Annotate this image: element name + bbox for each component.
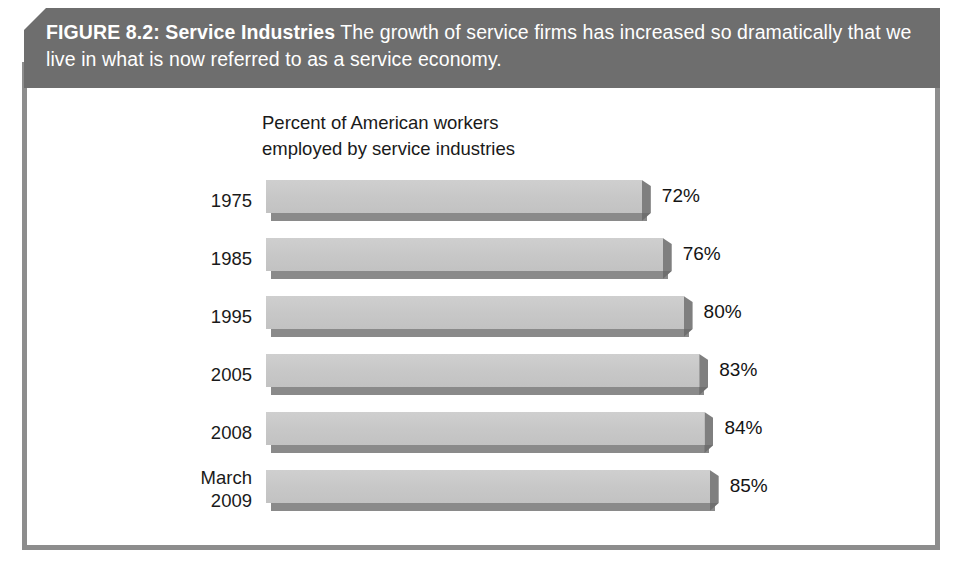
bar-row: 199580%: [22, 296, 940, 348]
bar-bottom-shadow: [271, 271, 668, 279]
bar-side-face: [704, 412, 713, 445]
bar-category-label: 1975: [132, 189, 252, 212]
figure-header-banner: FIGURE 8.2: Service Industries The growt…: [24, 8, 940, 88]
figure-root: FIGURE 8.2: Service Industries The growt…: [0, 0, 957, 570]
bar-bottom-shadow: [271, 387, 704, 395]
bar-row: 200583%: [22, 354, 940, 406]
bar-side-face: [684, 296, 693, 329]
bar-row: 197572%: [22, 180, 940, 232]
bar-value-label: 76%: [683, 243, 721, 265]
bar-value-label: 85%: [730, 475, 768, 497]
bar-side-face: [699, 354, 708, 387]
bar-face: [266, 354, 699, 387]
bar-bottom-shadow: [271, 503, 715, 511]
bar-category-label: 2005: [132, 363, 252, 386]
bar-value-label: 84%: [724, 417, 762, 439]
bar-face: [266, 412, 704, 445]
bar-side-face: [642, 180, 651, 213]
bar-face: [266, 238, 663, 271]
bar-value-label: 83%: [719, 359, 757, 381]
bar-category-label: March 2009: [132, 466, 252, 512]
bar-bottom-shadow: [271, 213, 647, 221]
bar-row: 200884%: [22, 412, 940, 464]
bar-category-label: 1985: [132, 247, 252, 270]
bar-value-label: 80%: [704, 301, 742, 323]
bar-face: [266, 470, 710, 503]
figure-header-text: FIGURE 8.2: Service Industries The growt…: [46, 19, 920, 73]
chart-area: Percent of American workers employed by …: [22, 62, 940, 550]
bar-side-face: [663, 238, 672, 271]
figure-title: FIGURE 8.2: Service Industries: [46, 21, 335, 43]
bar-row: 198576%: [22, 238, 940, 290]
bar-chart-plot: 197572%198576%199580%200583%200884%March…: [22, 62, 940, 550]
bar-category-label: 2008: [132, 421, 252, 444]
bar-bottom-shadow: [271, 445, 709, 453]
bar-category-label: 1995: [132, 305, 252, 328]
bar-value-label: 72%: [662, 185, 700, 207]
bar-bottom-shadow: [271, 329, 689, 337]
bar-face: [266, 180, 642, 213]
bar-face: [266, 296, 684, 329]
bar-row: March 200985%: [22, 470, 940, 522]
bar-side-face: [710, 470, 719, 503]
